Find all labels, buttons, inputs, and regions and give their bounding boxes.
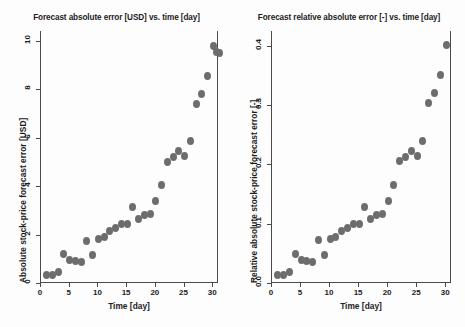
- chart-title-relative-error: Forecast relative absolute error [-] vs.…: [233, 13, 465, 22]
- data-point: [356, 220, 363, 228]
- y-tick-label: 0: [23, 275, 32, 289]
- data-point: [187, 137, 194, 145]
- x-tick-label: 15: [354, 288, 363, 297]
- data-point: [431, 89, 438, 97]
- chart-relative-error: Forecast relative absolute error [-] vs.…: [233, 0, 465, 327]
- y-tick-label: 4: [23, 178, 32, 192]
- figure-canvas: Forecast absolute error [USD] vs. time […: [0, 0, 465, 327]
- data-point: [443, 41, 450, 49]
- chart-title-absolute-error: Forecast absolute error [USD] vs. time […: [0, 13, 233, 22]
- data-point: [379, 210, 386, 218]
- x-tick-label: 30: [441, 288, 450, 297]
- data-point: [437, 71, 444, 79]
- x-tick-mark: [155, 283, 156, 287]
- data-point: [390, 181, 397, 189]
- x-tick-label: 5: [66, 288, 70, 297]
- y-tick-mark: [267, 224, 271, 225]
- x-tick-mark: [387, 283, 388, 287]
- y-tick-label: 0.0: [254, 275, 263, 289]
- x-tick-mark: [40, 283, 41, 287]
- x-tick-label: 30: [208, 288, 217, 297]
- x-tick-label: 15: [122, 288, 131, 297]
- data-point: [55, 268, 62, 276]
- x-tick-label: 0: [269, 288, 273, 297]
- y-tick-label: 0.3: [254, 97, 263, 111]
- x-tick-label: 10: [93, 288, 102, 297]
- x-tick-mark: [126, 283, 127, 287]
- y-tick-mark: [36, 89, 40, 90]
- x-tick-mark: [300, 283, 301, 287]
- x-tick-mark: [97, 283, 98, 287]
- x-tick-label: 20: [383, 288, 392, 297]
- y-tick-label: 8: [23, 81, 32, 95]
- y-tick-mark: [36, 138, 40, 139]
- x-axis-label-absolute-error: Time [day]: [108, 301, 150, 311]
- x-tick-label: 0: [38, 288, 42, 297]
- x-tick-label: 25: [179, 288, 188, 297]
- data-point: [124, 220, 131, 228]
- data-point: [402, 153, 409, 161]
- chart-absolute-error: Forecast absolute error [USD] vs. time […: [0, 0, 233, 327]
- data-point: [361, 203, 368, 211]
- data-point: [129, 203, 136, 211]
- y-tick-mark: [36, 186, 40, 187]
- x-tick-label: 5: [298, 288, 302, 297]
- x-tick-mark: [212, 283, 213, 287]
- plot-area-relative-error: [271, 31, 451, 283]
- data-point: [193, 100, 200, 108]
- data-point: [414, 152, 421, 160]
- x-tick-mark: [329, 283, 330, 287]
- data-point: [425, 99, 432, 107]
- y-tick-label: 6: [23, 129, 32, 143]
- x-tick-mark: [445, 283, 446, 287]
- data-point: [147, 210, 154, 218]
- y-tick-label: 0.4: [254, 37, 263, 51]
- data-point: [83, 237, 90, 245]
- y-tick-label: 2: [23, 226, 32, 240]
- x-tick-mark: [184, 283, 185, 287]
- y-tick-mark: [36, 41, 40, 42]
- x-tick-mark: [69, 283, 70, 287]
- data-point: [181, 152, 188, 160]
- x-tick-mark: [271, 283, 272, 287]
- data-point: [198, 90, 205, 98]
- x-tick-label: 10: [325, 288, 334, 297]
- y-tick-mark: [267, 164, 271, 165]
- data-point: [89, 251, 96, 259]
- y-tick-label: 10: [23, 32, 32, 46]
- data-point: [204, 72, 211, 80]
- data-point: [158, 181, 165, 189]
- data-point: [309, 258, 316, 266]
- y-tick-label: 0.2: [254, 156, 263, 170]
- data-point: [152, 197, 159, 205]
- y-axis-label-relative-error: Relative absolute stock-price forecast e…: [249, 100, 259, 283]
- y-tick-mark: [267, 105, 271, 106]
- data-point: [419, 137, 426, 145]
- data-point: [315, 236, 322, 244]
- x-tick-label: 25: [412, 288, 421, 297]
- data-point: [286, 268, 293, 276]
- x-tick-label: 20: [150, 288, 159, 297]
- y-tick-mark: [267, 46, 271, 47]
- y-tick-mark: [36, 235, 40, 236]
- data-point: [78, 258, 85, 266]
- data-point: [321, 251, 328, 259]
- x-tick-mark: [358, 283, 359, 287]
- x-tick-mark: [416, 283, 417, 287]
- y-tick-label: 0.1: [254, 215, 263, 229]
- data-point: [216, 49, 223, 57]
- x-axis-label-relative-error: Time [day]: [340, 301, 382, 311]
- data-point: [385, 197, 392, 205]
- plot-area-absolute-error: [40, 31, 218, 283]
